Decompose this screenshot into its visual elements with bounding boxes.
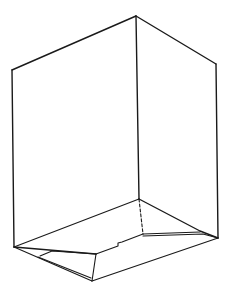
center-dashed-fold [139,199,143,234]
bottom-left-upper-edge [14,199,139,247]
front-fold-with-notch [96,234,143,254]
bottom-left-lower-edge-double [38,257,91,278]
right-flap-inner-edge [143,232,200,234]
top-left-edge [12,16,136,70]
left-flap-inner-edge [40,251,96,256]
box-top-edges [12,16,216,70]
box-bottom-flaps [14,199,218,281]
bottom-right-lower-edge [92,238,218,281]
right-flap-upper-edge [139,199,218,238]
right-vertical-edge [216,64,218,238]
left-vertical-edge [12,70,14,247]
box-diagram: box-line-drawing [0,0,230,301]
front-vertical-fold [92,254,96,281]
top-right-edge [136,16,216,64]
right-flap-inner-edge-2 [143,234,218,238]
box-drawing-svg [0,0,230,301]
box-vertical-edges [12,16,218,247]
center-vertical-edge [136,16,139,199]
